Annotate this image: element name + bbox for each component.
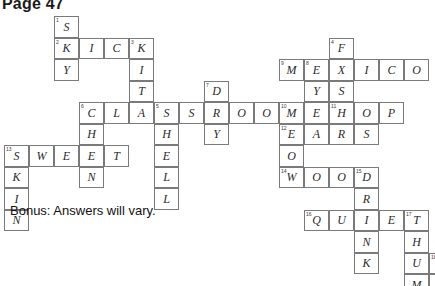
cell-letter: I (355, 64, 378, 76)
cell-letter: Y (205, 128, 228, 140)
crossword-cell[interactable]: X (329, 59, 354, 81)
crossword-cell[interactable]: 1S (54, 16, 79, 38)
crossword-cell[interactable]: E (304, 102, 329, 124)
crossword-cell[interactable]: 16Q (304, 210, 329, 232)
crossword-cell[interactable]: O (329, 167, 354, 189)
crossword-cell[interactable]: 3K (129, 38, 154, 60)
crossword-cell[interactable]: P (379, 102, 404, 124)
crossword-cell[interactable]: K (4, 167, 29, 189)
cell-letter: F (430, 257, 435, 269)
crossword-cell[interactable]: W (29, 145, 54, 167)
cell-letter: M (405, 279, 428, 286)
crossword-cell[interactable]: E (54, 145, 79, 167)
crossword-cell[interactable]: O (279, 145, 304, 167)
crossword-cell[interactable]: 13S (4, 145, 29, 167)
crossword-cell[interactable]: T (129, 81, 154, 103)
cell-letter: E (155, 150, 178, 162)
cell-number: 12 (281, 125, 287, 131)
crossword-cell[interactable]: T (104, 145, 129, 167)
crossword-cell[interactable]: H (404, 231, 429, 253)
crossword-cell[interactable]: 4F (329, 38, 354, 60)
cell-letter: A (130, 107, 153, 119)
crossword-cell[interactable]: O (229, 102, 254, 124)
crossword-cell[interactable]: 7D (204, 81, 229, 103)
crossword-cell[interactable]: S (329, 81, 354, 103)
crossword-cell[interactable]: 17T (404, 210, 429, 232)
crossword-cell[interactable]: Y (204, 124, 229, 146)
crossword-cell[interactable]: Y (54, 59, 79, 81)
crossword-cell[interactable]: U (329, 210, 354, 232)
cell-number: 13 (6, 146, 12, 152)
crossword-cell[interactable]: R (329, 124, 354, 146)
crossword-cell[interactable]: N (79, 167, 104, 189)
cell-letter: E (80, 150, 103, 162)
cell-letter: T (105, 150, 128, 162)
crossword-cell[interactable]: U (404, 253, 429, 275)
cell-number: 8 (306, 60, 309, 66)
crossword-cell[interactable]: I (354, 210, 379, 232)
crossword-cell[interactable]: 10M (279, 102, 304, 124)
cell-letter: T (130, 85, 153, 97)
crossword-cell[interactable]: 8E (304, 59, 329, 81)
cell-letter: R (430, 279, 435, 286)
crossword-cell[interactable]: A (304, 124, 329, 146)
crossword-cell[interactable]: E (79, 145, 104, 167)
cell-letter: D (205, 85, 228, 97)
crossword-cell[interactable]: L (154, 188, 179, 210)
crossword-cell[interactable]: R (204, 102, 229, 124)
cell-number: 1 (56, 17, 59, 23)
crossword-cell[interactable]: 11H (329, 102, 354, 124)
cell-letter: M (280, 64, 303, 76)
crossword-cell[interactable]: K (354, 253, 379, 275)
crossword-cell[interactable]: C (104, 38, 129, 60)
crossword-cell[interactable]: O (304, 167, 329, 189)
crossword-cell[interactable]: O (404, 59, 429, 81)
crossword-cell[interactable]: H (154, 124, 179, 146)
crossword-cell[interactable]: 2K (54, 38, 79, 60)
cell-letter: L (155, 193, 178, 205)
crossword-cell[interactable]: 9M (279, 59, 304, 81)
cell-number: 6 (81, 103, 84, 109)
crossword-cell[interactable]: 18F (429, 253, 435, 275)
crossword-cell[interactable]: E (379, 210, 404, 232)
cell-letter: O (405, 64, 428, 76)
cell-letter: Q (305, 214, 328, 226)
crossword-grid: 1S2KIC3K4FYI9M8EXICOT7DYS6CLA5SSROO10ME1… (0, 0, 435, 286)
crossword-cell[interactable]: O (254, 102, 279, 124)
crossword-cell[interactable]: O (354, 102, 379, 124)
crossword-cell[interactable]: N (354, 231, 379, 253)
crossword-cell[interactable]: C (379, 59, 404, 81)
cell-letter: R (205, 107, 228, 119)
cell-letter: S (155, 107, 178, 119)
cell-letter: N (355, 236, 378, 248)
crossword-cell[interactable]: 12E (279, 124, 304, 146)
crossword-cell[interactable]: H (79, 124, 104, 146)
crossword-cell[interactable]: M (404, 274, 429, 286)
cell-number: 14 (281, 168, 287, 174)
crossword-cell[interactable]: R (354, 188, 379, 210)
cell-letter: E (380, 214, 403, 226)
cell-letter: S (5, 150, 28, 162)
cell-letter: K (55, 42, 78, 54)
crossword-cell[interactable]: I (354, 59, 379, 81)
crossword-cell[interactable]: R (429, 274, 435, 286)
cell-letter: I (130, 64, 153, 76)
cell-number: 16 (306, 211, 312, 217)
crossword-cell[interactable]: 14W (279, 167, 304, 189)
crossword-cell[interactable]: I (129, 59, 154, 81)
crossword-cell[interactable]: E (154, 145, 179, 167)
crossword-cell[interactable]: 5S (154, 102, 179, 124)
crossword-cell[interactable]: L (154, 167, 179, 189)
crossword-cell[interactable]: S (179, 102, 204, 124)
cell-letter: O (305, 171, 328, 183)
crossword-cell[interactable]: L (104, 102, 129, 124)
crossword-cell[interactable]: 15D (354, 167, 379, 189)
cell-letter: S (180, 107, 203, 119)
crossword-cell[interactable]: Y (304, 81, 329, 103)
crossword-cell[interactable]: S (354, 124, 379, 146)
cell-number: 2 (56, 39, 59, 45)
crossword-cell[interactable]: 6C (79, 102, 104, 124)
cell-letter: K (5, 171, 28, 183)
crossword-cell[interactable]: A (129, 102, 154, 124)
crossword-cell[interactable]: I (79, 38, 104, 60)
